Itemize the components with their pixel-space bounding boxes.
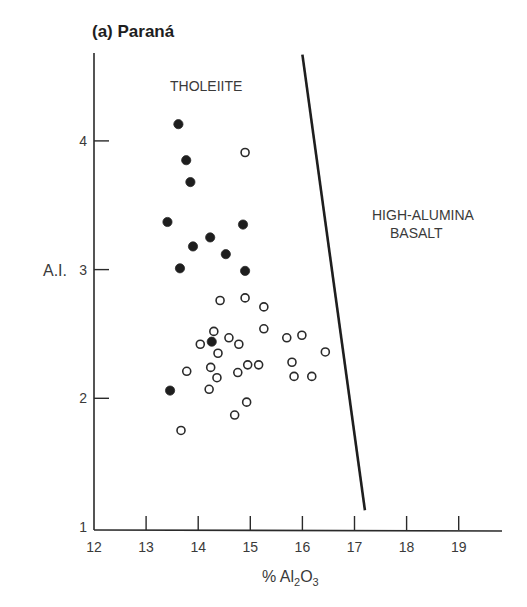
open-data-point xyxy=(225,334,233,342)
open-data-point xyxy=(235,340,243,348)
open-data-point xyxy=(260,325,268,333)
open-data-point xyxy=(210,327,218,335)
chart-title: (a) Paraná xyxy=(92,22,175,41)
open-data-point xyxy=(234,369,242,377)
x-axis-label: % Al2O3 xyxy=(262,568,319,588)
open-data-point xyxy=(207,363,215,371)
filled-data-point xyxy=(207,337,216,346)
filled-data-point xyxy=(206,233,215,242)
x-tick-label: 14 xyxy=(190,539,206,555)
filled-data-point xyxy=(188,242,197,251)
y-axis-label: A.I. xyxy=(43,262,67,279)
x-tick-label: 13 xyxy=(138,539,154,555)
x-axis-line xyxy=(94,530,502,531)
axes: 1213141516171819 1234 xyxy=(79,53,502,555)
x-tick-label: 18 xyxy=(399,539,415,555)
basalt-label: BASALT xyxy=(390,225,443,241)
filled-data-point xyxy=(240,266,249,275)
open-data-point xyxy=(298,331,306,339)
open-data-point xyxy=(205,385,213,393)
filled-data-point xyxy=(182,156,191,165)
x-tick-label: 16 xyxy=(295,539,311,555)
open-data-point xyxy=(290,372,298,380)
open-data-point xyxy=(231,411,239,419)
open-data-point xyxy=(260,303,268,311)
y-tick-label: 4 xyxy=(79,133,87,149)
filled-data-point xyxy=(238,220,247,229)
open-data-point xyxy=(283,334,291,342)
open-data-point xyxy=(321,348,329,356)
x-tick-label: 15 xyxy=(243,539,259,555)
open-data-point xyxy=(288,358,296,366)
open-data-point xyxy=(213,374,221,382)
filled-data-point xyxy=(165,386,174,395)
open-data-point xyxy=(183,367,191,375)
x-ticks: 1213141516171819 xyxy=(86,516,466,555)
open-data-point xyxy=(216,296,224,304)
open-data-point xyxy=(243,398,251,406)
open-data-point xyxy=(255,361,263,369)
high-alumina-label: HIGH-ALUMINA xyxy=(372,207,475,223)
x-tick-label: 12 xyxy=(86,539,102,555)
open-data-point xyxy=(241,148,249,156)
filled-data-point xyxy=(174,120,183,129)
filled-data-point xyxy=(175,264,184,273)
data-points xyxy=(163,120,329,435)
tholeiite-label: THOLEIITE xyxy=(170,78,242,94)
y-tick-label: 1 xyxy=(79,519,87,535)
x-tick-label: 19 xyxy=(451,539,467,555)
open-data-point xyxy=(196,340,204,348)
filled-data-point xyxy=(186,177,195,186)
open-data-point xyxy=(308,372,316,380)
x-tick-label: 17 xyxy=(347,539,363,555)
open-data-point xyxy=(244,361,252,369)
scatter-chart: (a) Paraná 1213141516171819 1234 A.I. % … xyxy=(0,0,527,607)
y-tick-label: 2 xyxy=(79,390,87,406)
boundary-line xyxy=(302,55,365,511)
y-tick-label: 3 xyxy=(79,262,87,278)
open-data-point xyxy=(177,426,185,434)
filled-data-point xyxy=(221,250,230,259)
filled-data-point xyxy=(163,217,172,226)
open-data-point xyxy=(241,294,249,302)
open-data-point xyxy=(214,349,222,357)
